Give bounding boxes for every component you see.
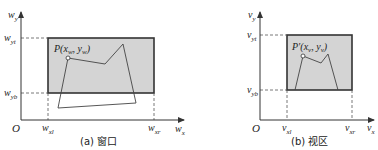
viewport-caption: (b) 视区 [291, 135, 328, 147]
window-x-axis-label: wx [175, 123, 186, 137]
viewport-origin-label: O [252, 122, 260, 134]
window-viewport-diagram: wy wx O wyt wyb wxl wxr P(xw, yw) (a) 窗口… [0, 0, 378, 150]
tick-vxr: vxr [345, 122, 356, 136]
window-y-axis-label: wy [8, 9, 19, 23]
tick-vxl: vxl [282, 122, 292, 136]
tick-wxr: wxr [148, 122, 161, 136]
viewport-x-axis-label: vx [367, 122, 375, 136]
tick-wyt: wyt [4, 32, 17, 46]
window-origin-label: O [12, 122, 20, 134]
tick-wxl: wxl [42, 122, 54, 136]
viewport-panel: vy vx O vyt vyb vxl vxr P′(xv, yv) (b) 视… [247, 9, 375, 147]
point-p-prime-marker [301, 54, 305, 58]
tick-vyt: vyt [247, 29, 258, 43]
window-panel: wy wx O wyt wyb wxl wxr P(xw, yw) (a) 窗口 [4, 9, 186, 147]
tick-wyb: wyb [4, 87, 18, 101]
tick-vyb: vyb [247, 84, 259, 98]
point-p-marker [66, 56, 70, 60]
viewport-y-axis-label: vy [248, 9, 256, 23]
window-caption: (a) 窗口 [80, 135, 117, 147]
